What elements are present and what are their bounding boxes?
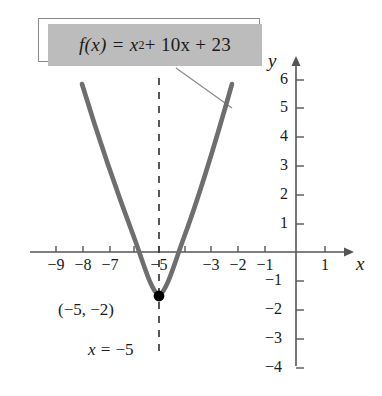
y-tick-label-5: 5 bbox=[262, 98, 288, 116]
x-axis-ticks bbox=[56, 246, 325, 252]
y-tick-label--2: −2 bbox=[256, 300, 282, 318]
y-axis bbox=[292, 56, 301, 366]
parabola-figure: f(x) = x2 + 10x + 23 y x −9 −8 −7 −5 −3 … bbox=[0, 0, 382, 396]
y-axis-ticks bbox=[296, 80, 304, 368]
y-tick-label--3: −3 bbox=[256, 329, 282, 347]
y-tick-label-2: 2 bbox=[262, 185, 288, 203]
y-tick-label-3: 3 bbox=[262, 156, 288, 174]
y-tick-label-1: 1 bbox=[262, 214, 288, 232]
equation-prefix: f(x) = x bbox=[79, 34, 139, 56]
y-tick-label-6: 6 bbox=[262, 70, 288, 88]
x-tick-label--5: −5 bbox=[144, 256, 174, 274]
x-tick-label-1: 1 bbox=[310, 256, 340, 274]
x-tick-label--7: −7 bbox=[95, 256, 125, 274]
axis-of-symmetry-value: −5 bbox=[116, 340, 134, 359]
vertex-dot bbox=[154, 291, 165, 302]
equation-suffix: + 10x + 23 bbox=[145, 34, 231, 56]
y-tick-label-4: 4 bbox=[262, 127, 288, 145]
equation-label: f(x) = x2 + 10x + 23 bbox=[48, 24, 262, 66]
y-tick-label--1: −1 bbox=[256, 271, 282, 289]
x-tick-label--8: −8 bbox=[68, 256, 98, 274]
y-tick-label--4: −4 bbox=[256, 358, 282, 376]
axis-of-symmetry-prefix: x = bbox=[88, 340, 116, 359]
y-axis-label: y bbox=[268, 50, 276, 72]
axis-of-symmetry-label: x = −5 bbox=[88, 340, 134, 360]
x-axis-label: x bbox=[356, 253, 364, 275]
x-tick-label--9: −9 bbox=[41, 256, 71, 274]
vertex-coordinates-label: (−5, −2) bbox=[58, 300, 114, 320]
x-tick-label--3: −3 bbox=[196, 256, 226, 274]
leader-line bbox=[176, 68, 232, 108]
x-tick-label--2: −2 bbox=[223, 256, 253, 274]
